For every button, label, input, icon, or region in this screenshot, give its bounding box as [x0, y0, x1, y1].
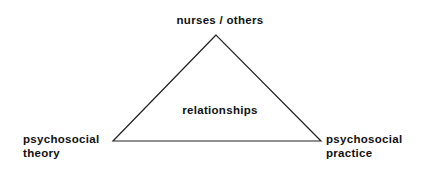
node-psychosocial-theory-line1: psychosocial: [23, 132, 99, 146]
node-psychosocial-practice: psychosocial practice: [326, 132, 402, 160]
triangle-diagram: nurses / others relationships psychosoci…: [0, 0, 428, 174]
node-psychosocial-practice-line1: psychosocial: [326, 132, 402, 146]
node-psychosocial-theory: psychosocial theory: [23, 132, 99, 160]
node-psychosocial-practice-line2: practice: [326, 146, 402, 160]
center-relationships: relationships: [170, 103, 270, 117]
node-psychosocial-theory-line2: theory: [23, 146, 99, 160]
node-nurses-others: nurses / others: [168, 13, 272, 27]
triangle-outline: [113, 35, 321, 141]
